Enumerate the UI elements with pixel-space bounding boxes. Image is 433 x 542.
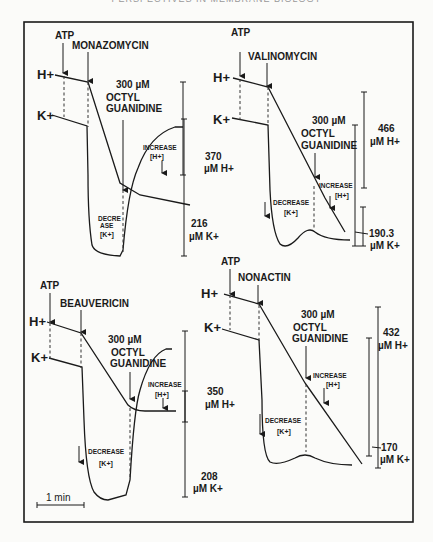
increase-ion: [H+] (335, 192, 349, 200)
guanidine-label: GUANIDINE (110, 358, 166, 369)
h-scale-unit: µM H+ (205, 399, 235, 410)
decrease-label-2: ASE (100, 222, 114, 229)
h-scale-value: 370 (205, 151, 222, 162)
octyl-label: OCTYL (106, 92, 140, 103)
leader-line (355, 232, 368, 234)
increase-ion: [H+] (326, 381, 340, 389)
figure-canvas: ATP MONAZOMYCIN H+ K+ 300 µM OCTYL GUANI… (0, 0, 433, 542)
k-scale-value: 216 (191, 218, 208, 229)
panel-valinomycin: ATP VALINOMYCIN H+ K+ 300 µM OCTYL GUANI… (213, 27, 400, 251)
k-scale-unit: µM K+ (380, 454, 410, 465)
panel-beauvericin: ATP BEAUVERICIN H+ K+ 300 µM OCTYL GUANI… (29, 280, 235, 508)
octyl-label: OCTYL (293, 322, 327, 333)
k-trace-label: K+ (31, 350, 48, 365)
atp-label: ATP (231, 27, 251, 38)
h-trace-label: H+ (213, 70, 230, 85)
decrease-ion: [K+] (284, 209, 298, 217)
increase-ion: [H+] (150, 153, 164, 161)
k-scale-value: 190.3 (369, 228, 394, 239)
k-trace-label: K+ (204, 320, 221, 335)
ionophore-label: BEAUVERICIN (60, 298, 129, 309)
k-trace (49, 349, 172, 500)
k-trace (52, 115, 183, 256)
atp-label: ATP (40, 280, 60, 291)
h-scale-value: 466 (378, 123, 395, 134)
guanidine-label: GUANIDINE (292, 333, 348, 344)
atp-label: ATP (221, 256, 241, 267)
ionophore-label: VALINOMYCIN (248, 51, 317, 62)
h-trace-label: H+ (37, 67, 54, 82)
ionophore-label: MONAZOMYCIN (72, 40, 149, 51)
panel-monazomycin: ATP MONAZOMYCIN H+ K+ 300 µM OCTYL GUANI… (37, 30, 234, 256)
ionophore-label: NONACTIN (238, 272, 291, 283)
increase-label: INCREASE (313, 372, 347, 379)
increase-label: INCREASE (319, 182, 353, 189)
decrease-label: DECREASE (273, 199, 310, 206)
h-scale-value: 350 (207, 386, 224, 397)
increase-label: INCREASE (143, 144, 177, 151)
decrease-ion: [K+] (100, 231, 114, 239)
guanidine-label: GUANIDINE (301, 140, 357, 151)
panel-nonactin: ATP NONACTIN H+ K+ 300 µM OCTYL GUANIDIN… (201, 256, 410, 468)
decrease-label: DECREASE (265, 417, 302, 424)
figure-frame (24, 22, 413, 522)
octyl-label: OCTYL (301, 128, 335, 139)
h-trace-label: H+ (201, 286, 218, 301)
k-scale-unit: µM K+ (193, 483, 223, 494)
decrease-ion: [K+] (277, 428, 291, 436)
k-trace-label: K+ (213, 112, 230, 127)
h-trace (224, 294, 362, 464)
h-scale-unit: µM H+ (370, 136, 400, 147)
k-trace (222, 329, 352, 465)
k-scale-unit: µM K+ (370, 240, 400, 251)
k-scale-value: 208 (201, 471, 218, 482)
k-trace-label: K+ (37, 108, 54, 123)
decrease-ion: [K+] (99, 460, 113, 468)
h-scale-unit: µM H+ (378, 340, 408, 351)
k-scale-unit: µM K+ (189, 231, 219, 242)
increase-label: INCREASE (148, 381, 182, 388)
h-scale-value: 432 (383, 327, 400, 338)
octyl-dose: 300 µM (116, 79, 150, 90)
h-trace-label: H+ (29, 314, 46, 329)
leader-line (372, 447, 381, 448)
decrease-label: DECRE (98, 215, 121, 222)
guanidine-label: GUANIDINE (106, 103, 162, 114)
octyl-label: OCTYL (111, 347, 145, 358)
decrease-label: DECREASE (88, 448, 125, 455)
octyl-dose: 300 µM (108, 334, 142, 345)
h-scale-unit: µM H+ (204, 163, 234, 174)
time-scale-label: 1 min (46, 492, 70, 503)
octyl-dose: 300 µM (312, 115, 346, 126)
k-scale-value: 170 (381, 442, 398, 453)
increase-ion: [H+] (155, 391, 169, 399)
octyl-dose: 300 µM (301, 309, 335, 320)
